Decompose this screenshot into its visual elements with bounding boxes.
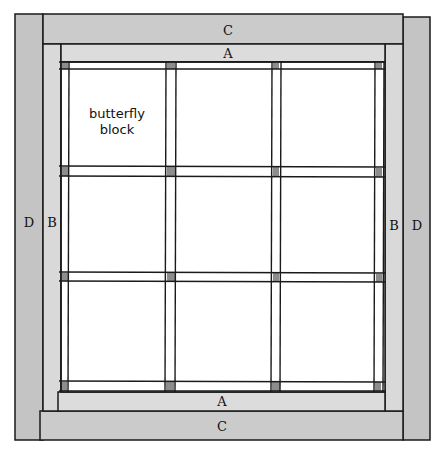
label-bottom-inner: A (216, 394, 227, 409)
label-left-outer: D (24, 215, 34, 230)
label-bottom-outer: C (217, 419, 227, 434)
label-top-inner: A (222, 46, 233, 61)
label-right-inner: B (389, 218, 399, 233)
label-top-outer: C (223, 23, 233, 38)
label-left-inner: B (47, 215, 57, 230)
label-right-outer: D (412, 218, 422, 233)
block-label-line2: block (100, 122, 135, 137)
quilt-diagram: C A A C D B B D butterfly block (0, 0, 443, 454)
block-label-line1: butterfly (89, 106, 145, 121)
